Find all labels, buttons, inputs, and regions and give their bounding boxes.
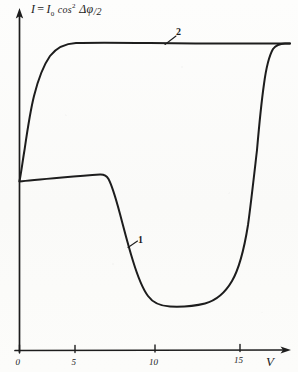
x-axis-label: V [266,354,276,369]
plot-svg: 0 5 10 15 V 1 2 [0,0,298,372]
x-tick-label-5: 5 [72,357,77,367]
curve-2-label: 2 [176,26,181,37]
x-tick-label-10: 10 [149,357,159,367]
curve-1-label: 1 [138,234,143,245]
curve-1-leader [128,241,138,248]
curve-1 [20,44,291,307]
curve-2 [20,43,291,181]
x-tick-label-0: 0 [16,357,21,367]
curve-1-annotation: 1 [128,234,143,248]
x-axis [15,346,291,353]
figure-canvas: I=I0 cos2 Δφ/2 0 5 10 15 V [0,0,298,372]
x-tick-label-15: 15 [234,355,244,365]
x-tick-labels: 0 5 10 15 [16,355,244,367]
curve-2-annotation: 2 [165,26,181,45]
x-axis-ticks [20,345,241,354]
